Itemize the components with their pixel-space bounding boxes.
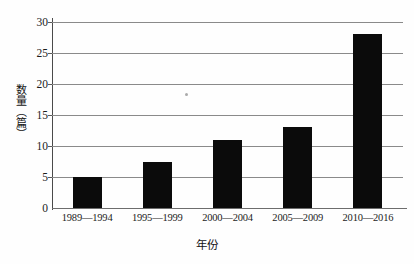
bar-2005-2009 [283,127,312,208]
x-axis-title: 年份 [0,236,414,252]
x-tick-label-4: 2005—2009 [272,212,323,223]
y-axis-tick-labels: 30 25 20 15 10 5 0 [26,0,48,264]
y-tick-label-30: 30 [26,16,48,28]
x-axis-line [52,208,407,209]
y-tick-label-15: 15 [26,109,48,121]
x-axis-tick-labels: 1989—1994 1995—1999 2000—2004 2005—2009 … [52,212,407,230]
bar-1995-1999 [143,162,172,209]
y-tick-label-20: 20 [26,78,48,90]
x-tick-label-3: 2000—2004 [202,212,253,223]
y-tick-label-25: 25 [26,47,48,59]
plot-area [52,22,403,208]
scan-artifact-speck [185,93,188,96]
bar-2010-2016 [353,34,382,208]
y-tick-label-0: 0 [26,202,48,214]
bar-chart-figure: 数量（篇） 30 25 20 15 10 5 0 1989—1994 1995—… [0,0,414,264]
bars-layer [52,22,403,208]
x-tick-label-5: 2010—2016 [343,212,394,223]
y-tick-label-5: 5 [26,171,48,183]
x-tick-label-1: 1989—1994 [62,212,113,223]
y-axis-title: 数量（篇） [8,84,26,139]
bar-1989-1994 [73,177,102,208]
y-tick-label-10: 10 [26,140,48,152]
bar-2000-2004 [213,140,242,208]
x-tick-label-2: 1995—1999 [132,212,183,223]
